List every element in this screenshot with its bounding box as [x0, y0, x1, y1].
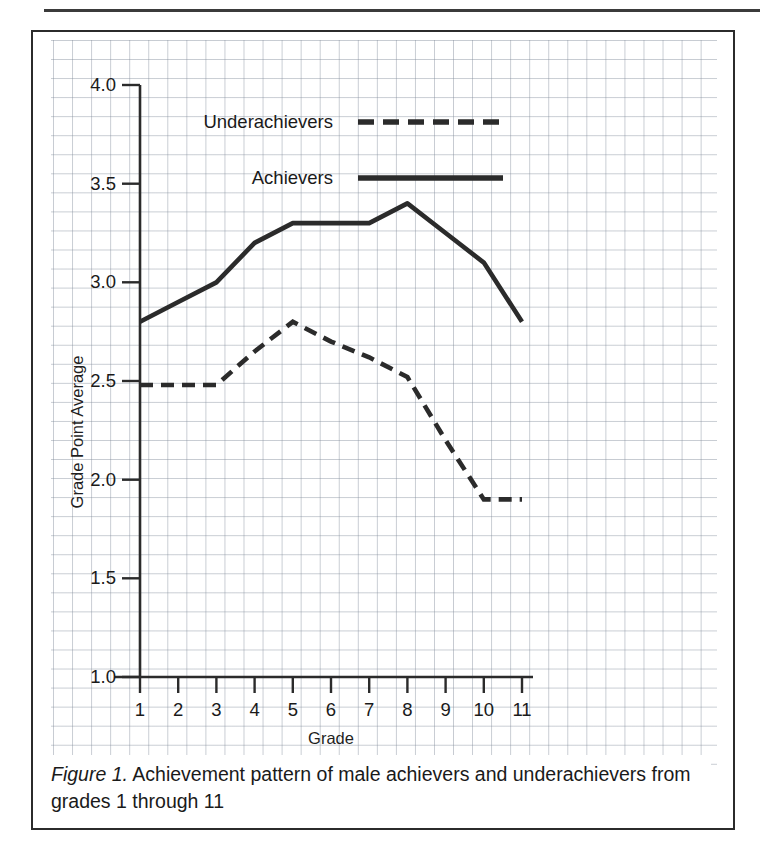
x-tick-label-1: 1: [135, 699, 145, 720]
x-tick-label-7: 7: [364, 699, 374, 720]
chart-legend: Underachievers Achievers: [203, 111, 503, 188]
y-tick-label-1.0: 1.0: [90, 666, 116, 687]
x-tick-label-10: 10: [474, 699, 495, 720]
legend-label-underachievers: Underachievers: [203, 111, 333, 132]
legend-label-achievers: Achievers: [252, 167, 333, 188]
y-tick-label-3.0: 3.0: [90, 271, 116, 292]
y-tick-label-2.5: 2.5: [90, 370, 116, 391]
top-horizontal-rule: [44, 9, 760, 12]
y-tick-label-4.0: 4.0: [90, 74, 116, 95]
series-line-achievers: [140, 203, 522, 321]
y-tick-label-2.0: 2.0: [90, 469, 116, 490]
x-tick-label-2: 2: [173, 699, 183, 720]
series-line-underachievers: [140, 322, 522, 500]
x-tick-label-6: 6: [326, 699, 336, 720]
x-tick-label-8: 8: [402, 699, 412, 720]
x-tick-label-5: 5: [288, 699, 298, 720]
y-tick-label-1.5: 1.5: [90, 567, 116, 588]
x-tick-label-4: 4: [249, 699, 259, 720]
figure-container: 4.0 3.5 3.0 2.5 2.0 1.5 1.0 1 2 3 4 5 6 …: [31, 30, 735, 830]
chart-plot: 4.0 3.5 3.0 2.5 2.0 1.5 1.0 1 2 3 4 5 6 …: [33, 32, 735, 792]
figure-caption: Figure 1. Achievement pattern of male ac…: [51, 755, 711, 816]
figure-number-label: Figure 1.: [51, 763, 128, 785]
x-axis-ticks: [140, 677, 522, 693]
x-axis-title: Grade: [308, 729, 354, 747]
x-tick-label-3: 3: [211, 699, 221, 720]
y-tick-label-3.5: 3.5: [90, 173, 116, 194]
y-axis-ticks: [122, 85, 140, 677]
x-tick-label-11: 11: [512, 699, 531, 720]
y-axis-title: Grade Point Average: [68, 356, 86, 509]
figure-caption-text: Achievement pattern of male achievers an…: [51, 763, 691, 813]
x-tick-label-9: 9: [440, 699, 450, 720]
